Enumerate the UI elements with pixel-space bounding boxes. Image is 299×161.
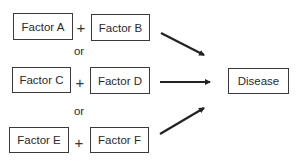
arrow-top-icon bbox=[161, 33, 204, 55]
plus-operator-row-3: + bbox=[75, 135, 84, 150]
factor-a-label: Factor A bbox=[22, 21, 65, 33]
disease-label: Disease bbox=[238, 75, 280, 87]
factor-f-label: Factor F bbox=[98, 134, 141, 146]
factor-c-box: Factor C bbox=[12, 67, 71, 93]
plus-operator-row-1: + bbox=[77, 20, 86, 35]
factor-c-label: Factor C bbox=[19, 74, 63, 86]
factor-d-label: Factor D bbox=[98, 75, 142, 87]
disease-box: Disease bbox=[228, 68, 289, 94]
or-connector-1: or bbox=[74, 46, 84, 58]
plus-operator-row-2: + bbox=[76, 75, 85, 90]
factor-e-box: Factor E bbox=[9, 127, 69, 153]
factor-e-label: Factor E bbox=[17, 134, 60, 146]
arrow-bottom-icon bbox=[160, 108, 204, 134]
factor-b-box: Factor B bbox=[91, 14, 150, 41]
factor-a-box: Factor A bbox=[13, 13, 73, 40]
factor-d-box: Factor D bbox=[90, 67, 150, 94]
factor-b-label: Factor B bbox=[99, 22, 142, 34]
or-connector-2: or bbox=[74, 106, 84, 118]
factor-f-box: Factor F bbox=[90, 127, 149, 153]
